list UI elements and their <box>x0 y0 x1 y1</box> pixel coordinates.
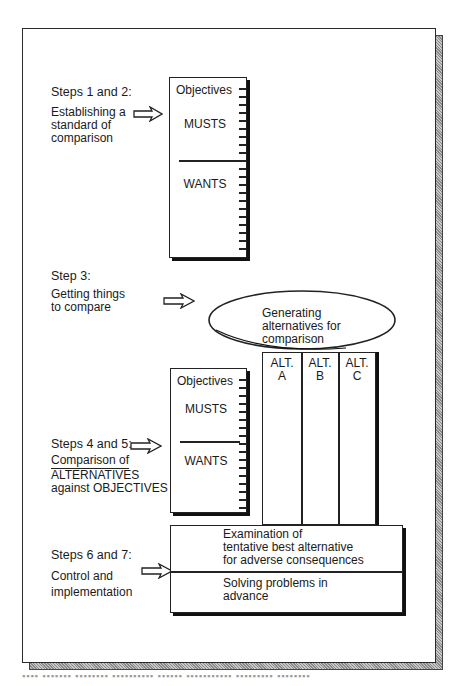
control-box-divider <box>171 571 402 573</box>
alt-b-header: ALT. B <box>302 357 338 383</box>
alt-letter: C <box>339 370 375 383</box>
steps-4-5-title: Steps 4 and 5: <box>51 438 132 451</box>
step-3-description: Getting things to compare <box>51 288 125 314</box>
arrow-right-icon <box>130 438 162 454</box>
alt-c-header: ALT. C <box>339 357 375 383</box>
objectives-box-bottom: Objectives MUSTS WANTS <box>170 368 247 513</box>
desc-line: to compare <box>51 301 125 314</box>
objectives-header: Objectives <box>170 84 238 97</box>
step-3-title: Step 3: <box>51 270 91 283</box>
steps-1-2-title: Steps 1 and 2: <box>51 86 132 99</box>
control-implementation-box: Examination of tentative best alternativ… <box>170 525 403 613</box>
objectives-box-top: Objectives MUSTS WANTS <box>169 77 247 258</box>
objectives-header: Objectives <box>171 375 239 388</box>
desc-line: comparison <box>51 132 126 145</box>
steps-6-7-description: Control and implementation <box>51 570 132 599</box>
arrow-right-icon <box>163 293 195 309</box>
musts-label: MUSTS <box>170 118 240 131</box>
desc-line: implementation <box>51 586 132 599</box>
adverse-consequences-text: Examination of tentative best alternativ… <box>223 528 364 567</box>
box-line: for adverse consequences <box>223 554 364 567</box>
figure-caption: ▪▪▪▪ ▪▪▪▪▪▪▪ ▪▪▪▪▪▪▪▪ ▪▪▪▪▪▪▪▪▪▪ ▪▪▪▪▪▪ … <box>22 671 442 681</box>
scale-ticks <box>239 88 247 248</box>
steps-6-7-title: Steps 6 and 7: <box>51 549 132 562</box>
musts-label: MUSTS <box>171 403 241 416</box>
musts-wants-divider <box>180 441 240 443</box>
wants-label: WANTS <box>170 178 240 191</box>
steps-4-5-description: Comparison of ALTERNATIVES against OBJEC… <box>51 454 168 495</box>
alt-letter: A <box>263 370 301 383</box>
arrow-right-icon <box>133 106 163 122</box>
ellipse-line: comparison <box>262 333 341 346</box>
steps-1-2-description: Establishing a standard of comparison <box>51 106 126 145</box>
alt-a-header: ALT. A <box>263 357 301 383</box>
wants-label: WANTS <box>171 455 241 468</box>
alt-letter: B <box>302 370 338 383</box>
desc-line: against OBJECTIVES <box>51 482 168 495</box>
box-line: advance <box>223 590 328 603</box>
desc-line: Control and <box>51 570 132 583</box>
ellipse-text: Generating alternatives for comparison <box>262 307 341 346</box>
scale-ticks <box>239 379 247 509</box>
arrow-right-icon <box>141 563 173 579</box>
solving-problems-text: Solving problems in advance <box>223 577 328 603</box>
alternatives-table: ALT. A ALT. B ALT. C <box>262 352 376 525</box>
musts-wants-divider <box>179 160 239 162</box>
desc-line: Comparison of <box>51 454 129 469</box>
